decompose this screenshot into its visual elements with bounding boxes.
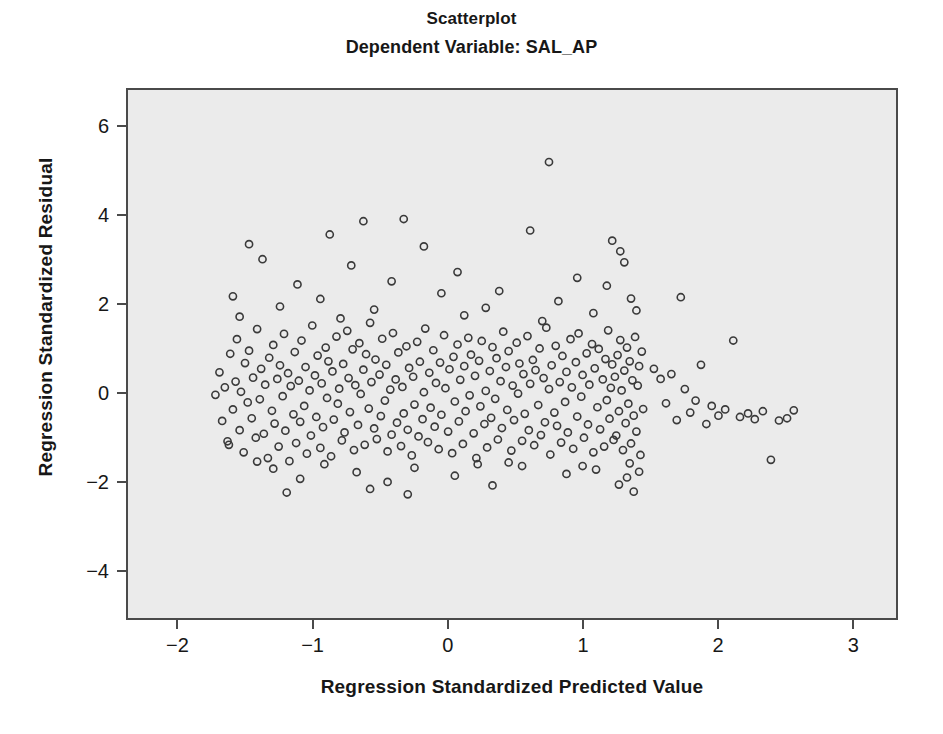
y-tick-label: 6 [51, 114, 109, 137]
scatter-point [361, 441, 368, 448]
scatter-point [240, 449, 247, 456]
scatter-point [454, 268, 461, 275]
scatter-point [336, 385, 343, 392]
scatter-point [516, 360, 523, 367]
scatterplot-figure: Scatterplot Dependent Variable: SAL_AP −… [0, 0, 943, 734]
scatter-point [775, 417, 782, 424]
scatter-point [229, 293, 236, 300]
scatter-point [609, 237, 616, 244]
scatter-point [590, 449, 597, 456]
scatter-point [306, 387, 313, 394]
x-tick-mark [312, 620, 314, 629]
scatter-point [344, 327, 351, 334]
scatter-point [623, 344, 630, 351]
scatter-point [311, 372, 318, 379]
scatter-point [325, 358, 332, 365]
y-tick-mark [117, 214, 126, 216]
scatter-point [319, 424, 326, 431]
chart-subtitle: Dependent Variable: SAL_AP [0, 35, 943, 59]
scatter-point [371, 306, 378, 313]
scatter-point [233, 336, 240, 343]
scatter-point [692, 397, 699, 404]
scatter-point [400, 215, 407, 222]
scatter-point [254, 325, 261, 332]
scatter-point [245, 241, 252, 248]
scatter-point [408, 452, 415, 459]
y-tick-label: 4 [51, 203, 109, 226]
scatter-point [307, 432, 314, 439]
scatter-point [627, 440, 634, 447]
scatter-point [461, 312, 468, 319]
scatter-point [337, 315, 344, 322]
x-tick-label: −1 [278, 634, 348, 657]
scatter-point [232, 378, 239, 385]
x-tick-label: 1 [548, 634, 618, 657]
y-tick-label: 2 [51, 292, 109, 315]
scatter-point [389, 329, 396, 336]
scatter-point [279, 393, 286, 400]
scatter-point [592, 466, 599, 473]
scatter-point [552, 342, 559, 349]
x-tick-mark [176, 620, 178, 629]
scatter-point [446, 366, 453, 373]
scatter-point [266, 354, 273, 361]
scatter-point [529, 356, 536, 363]
scatter-point [614, 352, 621, 359]
scatter-point [340, 360, 347, 367]
scatter-point [449, 450, 456, 457]
scatter-point [388, 278, 395, 285]
scatter-point [618, 387, 625, 394]
scatter-point [321, 461, 328, 468]
scatter-point [450, 353, 457, 360]
scatter-point [268, 407, 275, 414]
scatter-point [376, 371, 383, 378]
scatter-point [430, 347, 437, 354]
y-tick-mark [117, 392, 126, 394]
scatter-point [509, 382, 516, 389]
scatter-point [229, 406, 236, 413]
scatter-point [579, 462, 586, 469]
scatter-point [442, 385, 449, 392]
scatter-point [633, 307, 640, 314]
scatter-point [531, 442, 538, 449]
scatter-point [436, 359, 443, 366]
scatter-point [328, 453, 335, 460]
scatter-point [367, 485, 374, 492]
scatter-point [657, 375, 664, 382]
scatter-point [541, 419, 548, 426]
scatter-point [393, 419, 400, 426]
scatter-point [466, 392, 473, 399]
scatter-point [668, 371, 675, 378]
scatter-point [505, 459, 512, 466]
scatter-point [617, 337, 624, 344]
x-tick-label: −2 [142, 634, 212, 657]
scatter-point [334, 400, 341, 407]
scatter-point [348, 262, 355, 269]
scatter-point [367, 319, 374, 326]
scatter-point [297, 418, 304, 425]
scatter-point [580, 434, 587, 441]
scatter-point [384, 478, 391, 485]
scatter-point [591, 365, 598, 372]
scatter-point [744, 410, 751, 417]
scatter-point [578, 393, 585, 400]
scatter-point [545, 386, 552, 393]
scatter-point [250, 374, 257, 381]
scatter-point [638, 348, 645, 355]
scatter-point [563, 368, 570, 375]
scatter-point [271, 420, 278, 427]
scatter-point [353, 469, 360, 476]
scatter-point [426, 369, 433, 376]
scatter-point [500, 328, 507, 335]
scatter-point [634, 382, 641, 389]
scatter-point [438, 411, 445, 418]
scatter-point [350, 447, 357, 454]
scatter-point [280, 330, 287, 337]
scatter-point [524, 333, 531, 340]
scatter-point [662, 400, 669, 407]
scatter-point [465, 334, 472, 341]
scatter-point [424, 439, 431, 446]
scatter-point [368, 378, 375, 385]
scatter-point [459, 440, 466, 447]
scatter-point [543, 324, 550, 331]
